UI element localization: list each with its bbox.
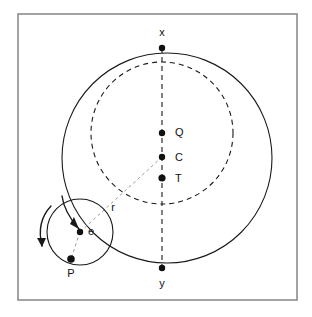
label-point-y: y xyxy=(159,277,165,289)
label-point-x: x xyxy=(159,26,165,38)
point-y xyxy=(159,265,165,271)
label-point-e: e xyxy=(88,225,94,237)
diagram-frame xyxy=(18,14,297,300)
point-T xyxy=(158,174,165,181)
epicycle-diagram-svg: x Q C T e P y r xyxy=(0,0,312,317)
diagram-stage: x Q C T e P y r xyxy=(0,0,312,317)
point-Q xyxy=(159,130,165,136)
label-point-T: T xyxy=(175,172,182,184)
point-C xyxy=(159,154,165,160)
point-P xyxy=(67,255,75,263)
point-x xyxy=(159,45,165,51)
label-point-C: C xyxy=(175,151,183,163)
label-point-P: P xyxy=(67,267,74,279)
label-point-Q: Q xyxy=(175,126,184,138)
label-radius-r: r xyxy=(111,201,115,213)
point-e xyxy=(77,229,83,235)
